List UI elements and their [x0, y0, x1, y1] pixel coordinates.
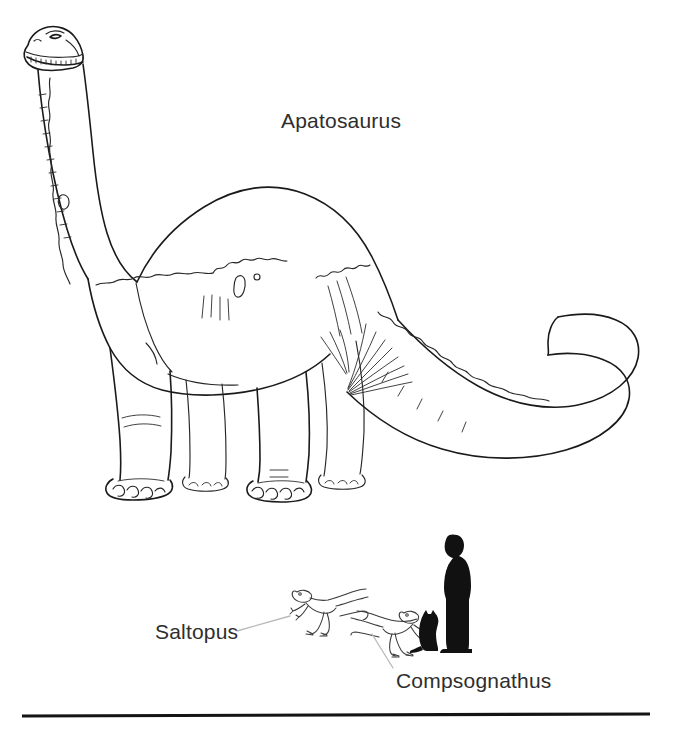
compsognathus-label: Compsognathus [396, 670, 552, 691]
apatosaurus-label: Apatosaurus [281, 110, 401, 131]
human-foot-silhouette [440, 649, 472, 653]
saltopus-label: Saltopus [155, 621, 238, 642]
ground-rule [22, 714, 650, 716]
dinosaur-scale-figure: Apatosaurus Saltopus Compsognathus [0, 0, 673, 735]
